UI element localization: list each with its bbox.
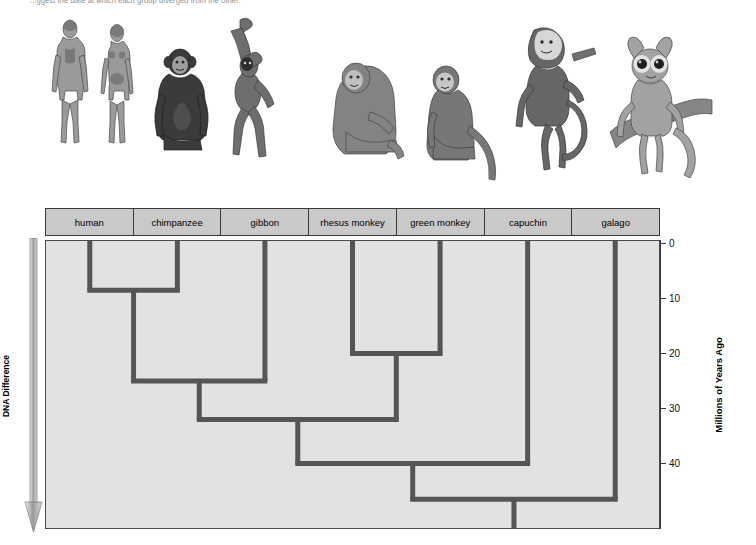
time-axis-tick [660, 463, 666, 464]
dna-difference-label: DNA Difference [1, 355, 11, 417]
time-axis-tick-label: 20 [669, 347, 680, 358]
down-arrow-icon [22, 238, 46, 534]
taxon-label-human[interactable]: human [46, 209, 134, 235]
illustration-chimpanzee [152, 46, 214, 156]
taxon-label-row: human chimpanzee gibbon rhesus monkey gr… [45, 208, 660, 236]
time-axis-tick-label: 0 [669, 237, 675, 248]
primate-illustration-band [0, 14, 756, 204]
cladogram-tree [46, 241, 659, 528]
time-axis-tick [660, 298, 666, 299]
time-axis-tick [660, 408, 666, 409]
figure-caption: ...ggest the date at which each group di… [30, 0, 450, 5]
taxon-label-gibbon[interactable]: gibbon [221, 209, 309, 235]
taxon-label-galago[interactable]: galago [572, 209, 659, 235]
illustration-galago [596, 32, 716, 192]
cladogram-plot-panel [45, 240, 660, 529]
dna-difference-axis: DNA Difference [22, 238, 46, 534]
cladogram-figure: ...ggest the date at which each group di… [0, 0, 756, 545]
illustration-green-monkey [420, 60, 506, 182]
taxon-label-chimpanzee[interactable]: chimpanzee [134, 209, 222, 235]
time-axis-tick [660, 243, 666, 244]
illustration-human-female [96, 22, 138, 146]
illustration-human-male [48, 18, 92, 146]
illustration-gibbon [218, 14, 290, 162]
time-axis-tick-label: 40 [669, 457, 680, 468]
illustration-capuchin [508, 24, 600, 174]
taxon-label-green-monkey[interactable]: green monkey [397, 209, 485, 235]
taxon-label-capuchin[interactable]: capuchin [485, 209, 573, 235]
time-axis-title: Millions of Years Ago [713, 337, 724, 433]
time-axis: 010203040 Millions of Years Ago [660, 240, 756, 529]
time-axis-tick-label: 30 [669, 402, 680, 413]
illustration-rhesus-monkey [330, 52, 408, 164]
time-axis-tick [660, 353, 666, 354]
time-axis-tick-label: 10 [669, 292, 680, 303]
time-axis-spine [660, 240, 661, 529]
taxon-label-rhesus-monkey[interactable]: rhesus monkey [309, 209, 397, 235]
